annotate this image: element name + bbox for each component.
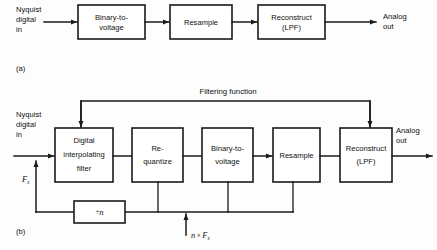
part-a-block-resample-line-1: Resample [184, 18, 218, 27]
part-b-block-resample-line-1: Resample [279, 151, 313, 160]
part-a-input-label-line-3: in [16, 25, 22, 34]
part-b-block-btv-line-2: voltage [215, 157, 240, 166]
part-b-tag: (b) [16, 227, 26, 236]
part-b-input-label-line-1: Nyquist [16, 110, 42, 119]
part-b-block-dif-line-1: Digital [73, 136, 94, 145]
figure-canvas: Nyquist digital in Binary-to- voltage Re… [0, 0, 437, 250]
part-b-output-label-line-1: Analog [396, 126, 420, 135]
part-a-input-label-line-2: digital [16, 15, 36, 24]
part-b-feedback-bracket [81, 101, 370, 126]
part-b-block-reconstruct-lpf [340, 128, 392, 182]
part-b-block-dif-line-2: interpolating [63, 150, 104, 159]
part-a-group: Nyquist digital in Binary-to- voltage Re… [16, 5, 407, 73]
part-a-tag: (a) [16, 64, 26, 73]
part-a-block-reconstruct-lpf-line-2: (LPF) [282, 23, 301, 32]
part-b-output-label-line-2: out [396, 136, 407, 145]
part-b-block-requantize-line-1: Re- [151, 144, 164, 153]
part-b-oversample-clock-label: n×Fs [191, 231, 210, 241]
part-b-block-reconstruct-line-2: (LPF) [357, 157, 376, 166]
part-a-output-label-line-2: out [383, 22, 394, 31]
part-a-output-label-line-1: Analog [383, 12, 407, 21]
part-b-block-binary-to-voltage [202, 128, 253, 182]
part-b-block-re-quantize [132, 128, 183, 182]
part-a-block-binary-to-voltage-line-1: Binary-to- [95, 13, 128, 22]
part-a-block-binary-to-voltage-line-2: voltage [99, 23, 124, 32]
block-diagram-svg: Nyquist digital in Binary-to- voltage Re… [0, 0, 437, 250]
part-b-fs-label: Fs [21, 175, 29, 185]
part-b-input-label-line-3: in [16, 130, 22, 139]
part-b-block-btv-line-1: Binary-to- [211, 144, 244, 153]
part-b-input-label-line-2: digital [16, 120, 36, 129]
part-b-block-dif-line-3: filter [77, 164, 92, 173]
part-a-block-reconstruct-lpf-line-1: Reconstruct [271, 13, 312, 22]
part-a-input-label-line-1: Nyquist [16, 5, 42, 14]
part-b-divide-by-n-label: ÷n [95, 206, 103, 216]
part-b-block-reconstruct-line-1: Reconstruct [346, 144, 387, 153]
part-b-block-requantize-line-2: quantize [143, 157, 172, 166]
part-b-feedback-label: Filtering function [199, 87, 256, 96]
part-b-group: Filtering function Nyquist digital in Fs… [14, 87, 432, 241]
